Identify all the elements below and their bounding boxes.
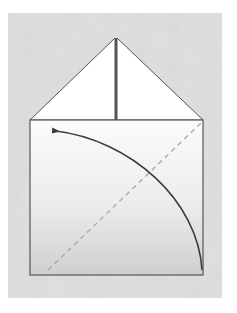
origami-diagram (0, 0, 237, 313)
diagram-canvas (0, 0, 237, 313)
paper-square (30, 120, 203, 275)
